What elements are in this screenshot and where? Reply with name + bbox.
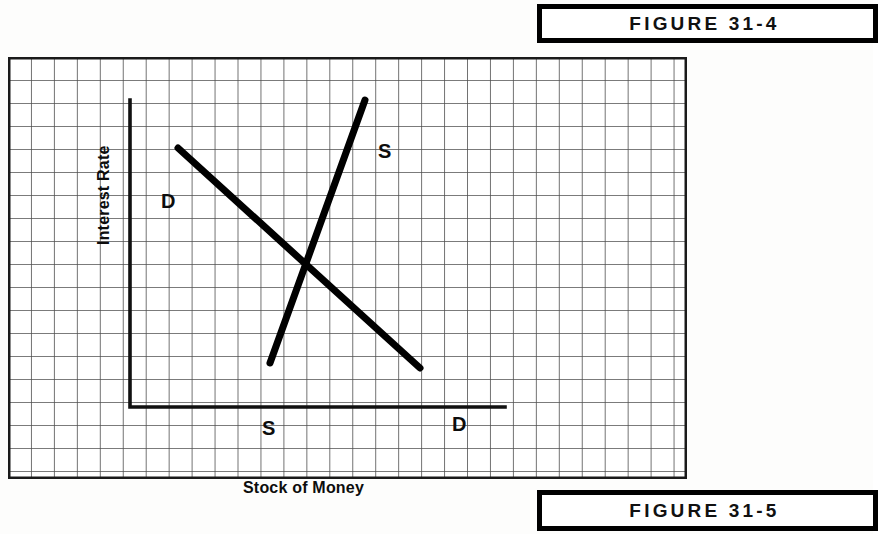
supply-curve-label-top: S xyxy=(378,141,391,161)
figure-label-top-text: FIGURE 31-4 xyxy=(629,13,785,35)
figure-label-box-top: FIGURE 31-4 xyxy=(537,4,878,43)
graph-svg xyxy=(8,57,687,479)
figure-label-box-bottom: FIGURE 31-5 xyxy=(537,490,878,531)
demand-curve-label-bottom: D xyxy=(452,414,466,434)
grid-background xyxy=(8,57,687,479)
x-axis-label: Stock of Money xyxy=(240,479,367,497)
figure-label-bottom-text: FIGURE 31-5 xyxy=(629,500,785,522)
graph-panel: S S D D Interest Rate Stock of Money xyxy=(8,57,687,479)
y-axis-label: Interest Rate xyxy=(96,145,112,245)
supply-curve-label-bottom: S xyxy=(262,418,275,438)
demand-curve-label-top: D xyxy=(161,191,175,211)
